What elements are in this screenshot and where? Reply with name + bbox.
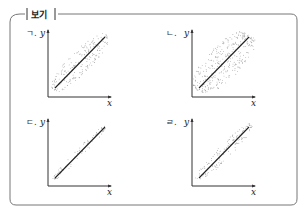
x-axis xyxy=(192,96,256,99)
x-axis-label: x xyxy=(107,98,112,108)
x-axis-label: x xyxy=(107,187,112,197)
x-axis xyxy=(48,96,112,99)
y-axis xyxy=(47,29,50,97)
y-axis xyxy=(47,118,50,186)
panel-d: ㄹ. y x xyxy=(166,117,256,197)
y-axis xyxy=(191,118,194,186)
regression-line xyxy=(55,127,105,178)
y-axis-label: y xyxy=(39,28,46,38)
regression-line xyxy=(199,127,249,178)
panel-label: ㄷ. xyxy=(26,117,37,127)
x-axis-label: x xyxy=(251,187,256,197)
y-axis-label: y xyxy=(183,117,190,127)
frame-border xyxy=(10,14,297,205)
x-axis-label: x xyxy=(251,98,256,108)
regression-line xyxy=(199,37,249,88)
regression-line xyxy=(55,37,105,88)
example-box: 보기 ㄱ. y x ㄴ. y x ㄷ. y xyxy=(0,0,303,213)
y-axis xyxy=(191,29,194,97)
box-title-text: 보기 xyxy=(31,9,47,20)
panel-a: ㄱ. y x xyxy=(26,28,112,108)
x-axis xyxy=(48,185,112,188)
y-axis-label: y xyxy=(39,117,46,127)
box-title: 보기 xyxy=(27,8,55,20)
panel-label: ㄴ. xyxy=(166,28,177,38)
panel-b: ㄴ. y x xyxy=(166,28,256,108)
y-axis-label: y xyxy=(183,28,190,38)
panel-label: ㄱ. xyxy=(26,28,37,38)
panel-c: ㄷ. y x xyxy=(26,117,112,197)
x-axis xyxy=(192,185,256,188)
panel-label: ㄹ. xyxy=(166,117,177,127)
